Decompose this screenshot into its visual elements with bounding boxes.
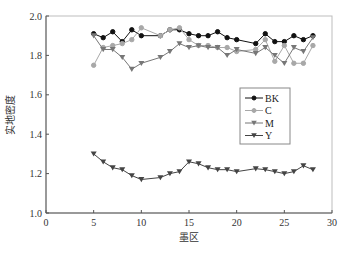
- circle-marker-icon: [196, 34, 200, 38]
- circle-marker-icon: [252, 109, 256, 113]
- triangle-down-marker-icon: [281, 61, 287, 66]
- y-tick-label: 1.6: [30, 89, 43, 100]
- circle-marker-icon: [234, 37, 238, 41]
- triangle-down-marker-icon: [167, 49, 173, 54]
- series-bk: [91, 28, 315, 46]
- triangle-down-marker-icon: [224, 53, 230, 58]
- circle-marker-icon: [187, 32, 191, 36]
- legend-label: C: [265, 105, 272, 116]
- circle-marker-icon: [282, 43, 286, 47]
- triangle-down-marker-icon: [186, 45, 192, 50]
- triangle-down-marker-icon: [281, 171, 287, 176]
- triangle-down-marker-icon: [91, 33, 97, 38]
- triangle-down-marker-icon: [253, 51, 259, 56]
- x-tick-label: 15: [184, 217, 194, 228]
- x-tick-label: 30: [327, 217, 337, 228]
- x-tick-label: 20: [232, 217, 242, 228]
- circle-marker-icon: [120, 41, 124, 45]
- line-chart: 0510152025301.01.21.41.61.82.0 BKCMY 墨区 …: [0, 0, 350, 253]
- circle-marker-icon: [263, 32, 267, 36]
- circle-marker-icon: [139, 26, 143, 30]
- y-tick-label: 1.4: [30, 129, 43, 140]
- triangle-down-marker-icon: [300, 163, 306, 168]
- circle-marker-icon: [158, 34, 162, 38]
- y-tick-label: 2.0: [30, 11, 43, 22]
- y-tick-label: 1.0: [30, 208, 43, 219]
- x-axis-title: 墨区: [179, 232, 199, 243]
- circle-marker-icon: [273, 39, 277, 43]
- legend: BKCMY: [240, 88, 290, 144]
- y-axis-title: 实地密度: [4, 95, 16, 135]
- x-tick-label: 10: [136, 217, 146, 228]
- circle-marker-icon: [215, 30, 219, 34]
- legend-label: M: [265, 118, 274, 129]
- triangle-down-marker-icon: [129, 173, 135, 178]
- circle-marker-icon: [254, 41, 258, 45]
- triangle-down-marker-icon: [167, 171, 173, 176]
- circle-marker-icon: [311, 43, 315, 47]
- triangle-down-marker-icon: [196, 161, 202, 166]
- circle-marker-icon: [292, 61, 296, 65]
- circle-marker-icon: [301, 37, 305, 41]
- circle-marker-icon: [177, 26, 181, 30]
- triangle-down-marker-icon: [291, 45, 297, 50]
- circle-marker-icon: [91, 63, 95, 67]
- x-tick-label: 5: [91, 217, 96, 228]
- circle-marker-icon: [139, 34, 143, 38]
- triangle-down-marker-icon: [129, 67, 135, 72]
- circle-marker-icon: [130, 37, 134, 41]
- triangle-down-marker-icon: [138, 61, 144, 66]
- series-line: [94, 154, 313, 180]
- circle-marker-icon: [206, 34, 210, 38]
- triangle-down-marker-icon: [119, 167, 125, 172]
- legend-label: BK: [265, 93, 280, 104]
- circle-marker-icon: [225, 35, 229, 39]
- circle-marker-icon: [252, 96, 256, 100]
- triangle-down-marker-icon: [100, 159, 106, 164]
- circle-marker-icon: [111, 30, 115, 34]
- circle-marker-icon: [225, 45, 229, 49]
- circle-marker-icon: [187, 37, 191, 41]
- circle-marker-icon: [301, 61, 305, 65]
- y-tick-label: 1.2: [30, 168, 43, 179]
- series-y: [91, 152, 316, 183]
- circle-marker-icon: [101, 35, 105, 39]
- circle-marker-icon: [168, 28, 172, 32]
- legend-label: Y: [265, 130, 272, 141]
- x-tick-label: 25: [279, 217, 289, 228]
- triangle-down-marker-icon: [300, 49, 306, 54]
- circle-marker-icon: [130, 28, 134, 32]
- x-tick-label: 0: [44, 217, 49, 228]
- circle-marker-icon: [273, 59, 277, 63]
- y-tick-label: 1.8: [30, 50, 43, 61]
- circle-marker-icon: [292, 34, 296, 38]
- triangle-down-marker-icon: [310, 167, 316, 172]
- axes: 0510152025301.01.21.41.61.82.0: [30, 11, 338, 229]
- circle-marker-icon: [263, 37, 267, 41]
- triangle-down-marker-icon: [310, 35, 316, 40]
